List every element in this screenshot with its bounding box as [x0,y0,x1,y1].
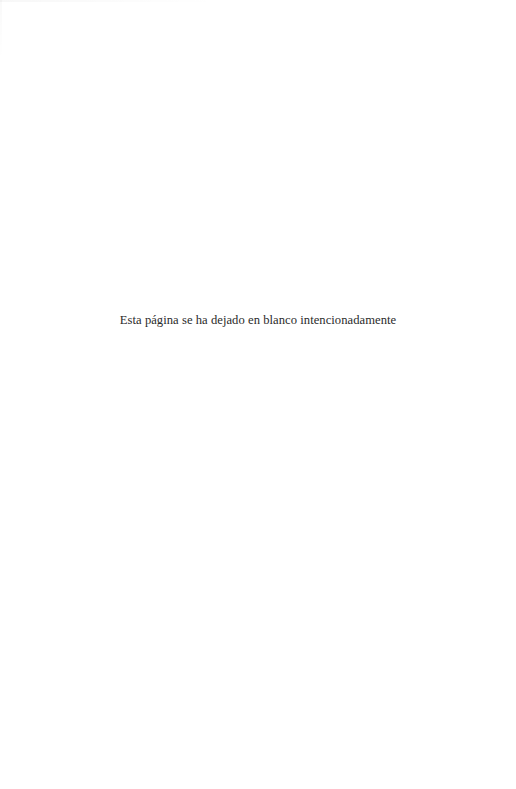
scan-edge-left [0,0,2,60]
intentionally-blank-notice: Esta página se ha dejado en blanco inten… [0,312,516,328]
blank-page: Esta página se ha dejado en blanco inten… [0,0,516,789]
scan-edge-top [0,0,220,2]
